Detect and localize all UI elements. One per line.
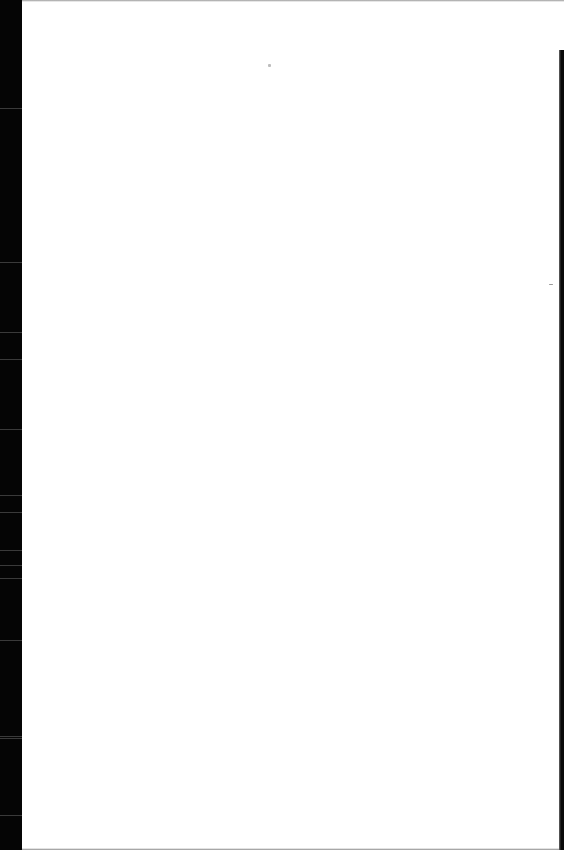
scan-streak xyxy=(0,550,22,551)
scan-streak xyxy=(0,359,22,360)
dust-speck xyxy=(549,284,553,285)
scan-streak xyxy=(0,429,22,430)
scan-streak xyxy=(0,738,22,739)
scan-streak xyxy=(0,640,22,641)
blank-page xyxy=(22,2,559,848)
scanner-right-border xyxy=(559,50,564,850)
scan-streak xyxy=(0,512,22,513)
scan-streak xyxy=(0,262,22,263)
dust-speck xyxy=(268,64,271,67)
scan-streak xyxy=(0,578,22,579)
scan-streak xyxy=(0,108,22,109)
scan-streak xyxy=(0,565,22,566)
scanner-left-border xyxy=(0,0,22,850)
scan-streak xyxy=(0,495,22,496)
scan-streak xyxy=(0,736,22,737)
scan-streak xyxy=(0,332,22,333)
scan-streak xyxy=(0,815,22,816)
